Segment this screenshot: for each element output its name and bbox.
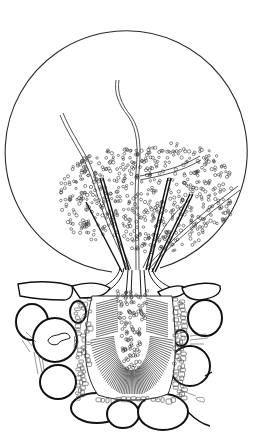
drawing-canvas [0,0,268,438]
illustration: Scientific ink drawing of a fungal fruit… [0,0,268,438]
